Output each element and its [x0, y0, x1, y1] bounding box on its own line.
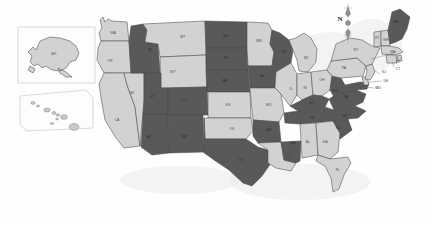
state-label-MN: MN — [256, 39, 262, 43]
state-label-NC: NC — [342, 114, 348, 118]
state-label-MO: MO — [266, 103, 272, 107]
state-label-PA: PA — [342, 66, 347, 70]
state-label-WV: WV — [332, 89, 338, 93]
state-label-ND: ND — [223, 34, 229, 38]
state-label-SD: SD — [223, 56, 228, 60]
state-label-WY: WY — [170, 70, 176, 74]
state-label-SC: SC — [335, 126, 340, 130]
state-label-AK: AK — [51, 51, 57, 56]
state-label-UT: UT — [150, 95, 156, 99]
hawaii-inset[interactable]: HI — [20, 90, 93, 131]
map-canvas: AK HI N — [0, 0, 433, 226]
state-label-NJ: NJ — [382, 70, 387, 74]
state-label-WI: WI — [282, 50, 286, 54]
state-label-GA: GA — [322, 140, 328, 144]
state-label-AZ: AZ — [147, 135, 152, 139]
state-NE[interactable] — [206, 70, 250, 92]
state-CO[interactable] — [168, 87, 208, 115]
state-label-CO: CO — [181, 99, 187, 103]
state-label-CA: CA — [114, 118, 120, 122]
state-label-CT: CT — [396, 67, 402, 71]
state-label-NY: NY — [353, 48, 359, 52]
state-label-VT: VT — [375, 36, 380, 40]
state-label-KY: KY — [310, 101, 315, 105]
state-label-AL: AL — [306, 140, 310, 144]
compass-north-label: N — [337, 15, 342, 23]
state-WY[interactable] — [160, 55, 207, 88]
state-label-NV: NV — [129, 91, 135, 95]
hawaii-inset-frame — [20, 90, 93, 131]
state-label-DE: DE — [383, 79, 389, 83]
state-label-MI: MI — [304, 56, 308, 60]
state-WA[interactable] — [99, 17, 129, 41]
state-label-NH: NH — [383, 38, 389, 42]
state-label-LA: LA — [286, 156, 291, 160]
state-label-ME: ME — [393, 20, 399, 24]
state-label-IL: IL — [289, 87, 292, 91]
us-choropleth-map: AK HI N — [0, 0, 433, 226]
state-label-IN: IN — [303, 86, 307, 90]
state-label-AR: AR — [266, 128, 271, 132]
state-OH[interactable] — [311, 70, 332, 96]
state-label-TX: TX — [239, 158, 244, 162]
state-label-KS: KS — [226, 103, 231, 107]
state-label-VA: VA — [344, 95, 349, 99]
state-label-WA: WA — [110, 31, 116, 35]
state-label-MS: MS — [290, 141, 296, 145]
state-label-ID: ID — [148, 48, 152, 52]
state-label-NE: NE — [222, 79, 228, 83]
state-label-NM: NM — [181, 135, 187, 139]
state-label-MD: MD — [375, 86, 381, 90]
state-OR[interactable] — [97, 41, 131, 73]
state-ME[interactable] — [388, 9, 410, 44]
state-label-OR: OR — [107, 59, 113, 63]
alaska-inset[interactable]: AK — [18, 27, 95, 83]
state-AZ[interactable] — [141, 114, 169, 155]
state-label-TN: TN — [310, 116, 315, 120]
state-label-OH: OH — [319, 78, 325, 82]
state-label-OK: OK — [229, 127, 235, 131]
state-label-HI: HI — [50, 121, 54, 126]
state-label-MT: MT — [180, 35, 186, 39]
state-label-FL: FL — [336, 168, 340, 172]
state-label-IA: IA — [260, 74, 264, 78]
